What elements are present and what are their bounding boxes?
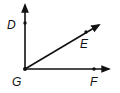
- label-d: D: [7, 18, 16, 32]
- point-e: [84, 30, 87, 33]
- label-e: E: [80, 37, 89, 51]
- label-f: F: [90, 75, 98, 89]
- point-g: [23, 67, 27, 71]
- point-d: [23, 21, 26, 24]
- angle-diagram: D E F G: [0, 0, 120, 93]
- label-g: G: [12, 75, 21, 89]
- point-f: [92, 67, 95, 70]
